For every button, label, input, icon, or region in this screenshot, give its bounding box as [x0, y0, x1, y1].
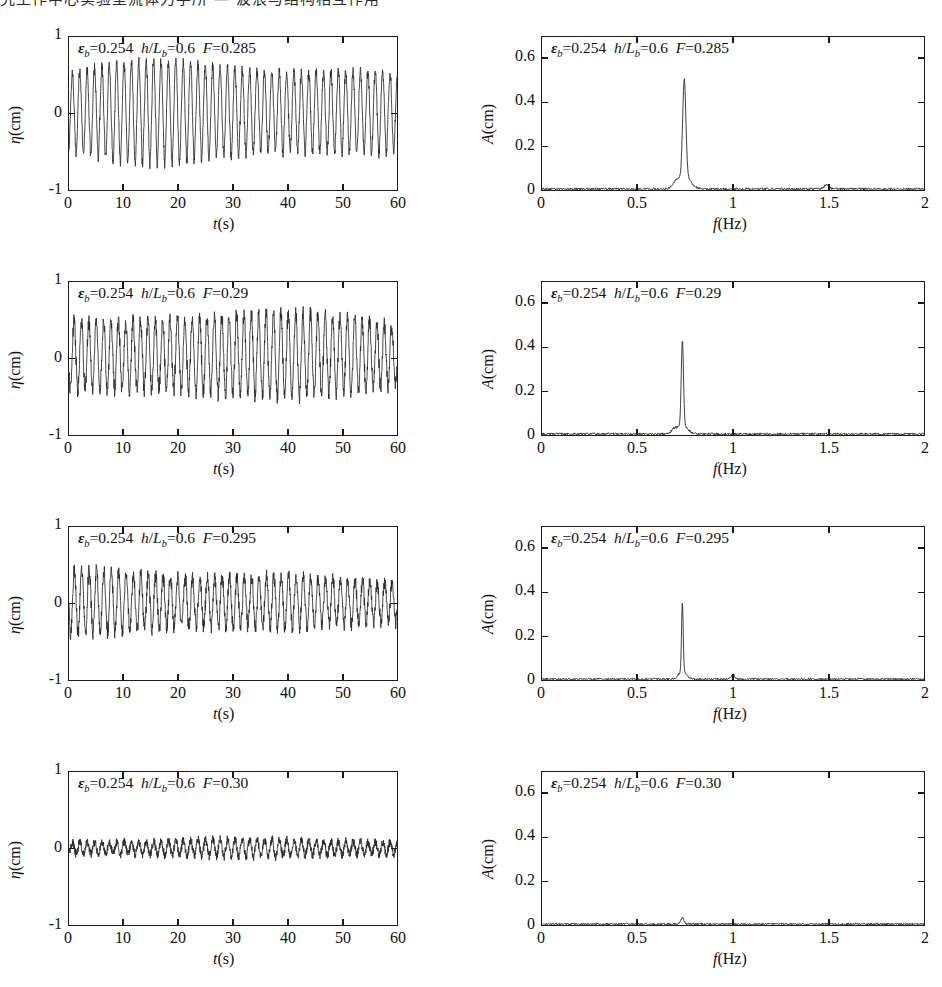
x-tick-top [287, 772, 288, 778]
x-tick-label: 20 [156, 929, 200, 947]
x-tick [636, 919, 637, 925]
x-tick-label: 2 [903, 194, 942, 212]
plot-box: εb=0.254 h/Lb=0.6 F=0.29 [541, 281, 925, 436]
y-tick-right [918, 636, 924, 637]
x-tick-top [636, 527, 637, 533]
x-tick [122, 184, 123, 190]
y-tick-label: 0.4 [491, 581, 535, 599]
x-tick-top [122, 772, 123, 778]
x-tick-label: 30 [211, 439, 255, 457]
spectrum-panel-1: εb=0.254 h/Lb=0.6 F=0.28500.511.520.60.4… [471, 18, 942, 263]
x-tick-top [177, 282, 178, 288]
y-tick-label: -1 [18, 425, 62, 443]
x-tick-label: 50 [321, 194, 365, 212]
x-tick [828, 674, 829, 680]
y-tick [542, 547, 548, 548]
y-tick [542, 881, 548, 882]
timeseries-panel-3: εb=0.254 h/Lb=0.6 F=0.295010203040506010… [0, 508, 471, 753]
x-tick [732, 429, 733, 435]
y-axis-title: A(cm) [479, 839, 497, 879]
x-tick-label: 40 [266, 439, 310, 457]
x-tick-label: 0.5 [615, 439, 659, 457]
x-axis-title: f(Hz) [713, 950, 747, 968]
y-axis-title: η(cm) [6, 350, 24, 388]
x-tick [342, 429, 343, 435]
x-tick-label: 1 [711, 684, 755, 702]
x-axis-title: t(s) [213, 705, 234, 723]
x-tick-label: 60 [376, 439, 420, 457]
x-tick-label: 1.5 [807, 194, 851, 212]
y-tick-right [918, 347, 924, 348]
x-tick-top [636, 282, 637, 288]
x-tick-label: 40 [266, 194, 310, 212]
y-tick-label: 0.4 [491, 91, 535, 109]
x-tick-label: 0.5 [615, 194, 659, 212]
y-tick [542, 837, 548, 838]
x-tick [828, 429, 829, 435]
y-tick-label: 0.6 [491, 782, 535, 800]
x-tick [287, 184, 288, 190]
top-cut-text: 究工作中心实验室流体力学所 — 波浪与结构相互作用 [0, 0, 942, 16]
y-axis-title: A(cm) [479, 104, 497, 144]
x-tick [732, 184, 733, 190]
y-tick-right [918, 592, 924, 593]
x-tick-top [287, 282, 288, 288]
x-tick-top [122, 37, 123, 43]
x-tick [287, 919, 288, 925]
y-tick-label: 1 [18, 270, 62, 288]
figure-row: εb=0.254 h/Lb=0.6 F=0.30010203040506010-… [0, 753, 942, 987]
y-tick [542, 391, 548, 392]
y-tick-label: 0.4 [491, 336, 535, 354]
data-trace [542, 772, 924, 925]
x-tick-top [342, 527, 343, 533]
data-trace [69, 772, 397, 925]
y-tick-label: 0 [18, 838, 62, 856]
y-tick [69, 848, 75, 849]
x-tick-label: 60 [376, 194, 420, 212]
y-tick-label: 0 [18, 348, 62, 366]
x-tick-label: 1 [711, 194, 755, 212]
x-tick-top [732, 527, 733, 533]
plot-box: εb=0.254 h/Lb=0.6 F=0.295 [541, 526, 925, 681]
y-tick [542, 146, 548, 147]
x-tick [122, 919, 123, 925]
x-tick-top [732, 282, 733, 288]
y-axis-title: A(cm) [479, 594, 497, 634]
x-tick-label: 1 [711, 439, 755, 457]
x-tick [828, 919, 829, 925]
y-tick-right [918, 792, 924, 793]
y-tick-label: 0 [491, 670, 535, 688]
y-tick-label: 0.6 [491, 292, 535, 310]
y-tick-label: -1 [18, 670, 62, 688]
x-tick-label: 2 [903, 439, 942, 457]
y-tick-label: 0 [18, 103, 62, 121]
spectrum-panel-4: εb=0.254 h/Lb=0.6 F=0.3000.511.520.60.40… [471, 753, 942, 987]
x-tick-top [122, 527, 123, 533]
x-tick [122, 674, 123, 680]
x-tick-top [122, 282, 123, 288]
x-tick-label: 2 [903, 929, 942, 947]
y-tick-right [918, 837, 924, 838]
plot-box: εb=0.254 h/Lb=0.6 F=0.30 [541, 771, 925, 926]
x-tick-label: 0.5 [615, 684, 659, 702]
y-tick-right [918, 547, 924, 548]
x-tick [342, 184, 343, 190]
x-tick-top [287, 527, 288, 533]
y-axis-title: η(cm) [6, 595, 24, 633]
y-tick-right [391, 358, 397, 359]
x-tick-label: 60 [376, 684, 420, 702]
y-tick [69, 358, 75, 359]
x-tick-top [287, 37, 288, 43]
y-tick-right [918, 881, 924, 882]
x-tick-label: 30 [211, 929, 255, 947]
x-tick-label: 20 [156, 439, 200, 457]
x-tick [636, 674, 637, 680]
y-tick [542, 792, 548, 793]
y-tick-label: 0.6 [491, 47, 535, 65]
x-tick-label: 30 [211, 194, 255, 212]
y-tick [542, 347, 548, 348]
x-tick-top [828, 282, 829, 288]
x-tick-top [828, 527, 829, 533]
data-trace [69, 282, 397, 435]
x-tick-top [828, 772, 829, 778]
